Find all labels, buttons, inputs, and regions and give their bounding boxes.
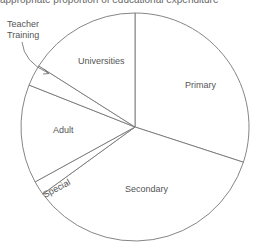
label-teacher-line1: Teacher — [7, 19, 39, 29]
label-primary: Primary — [185, 80, 216, 90]
label-universities: Universities — [78, 56, 125, 66]
label-secondary: Secondary — [125, 184, 169, 194]
label-adult: Adult — [53, 125, 74, 135]
pie-chart: Primary Secondary Special Adult Universi… — [0, 0, 256, 250]
label-teacher-line2: Training — [7, 30, 39, 40]
